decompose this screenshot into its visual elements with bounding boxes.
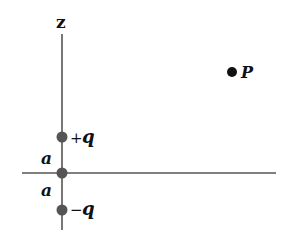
dipole-diagram: z + q − q a a P (0, 0, 283, 237)
origin-dot (57, 168, 68, 179)
point-p-label: P (240, 63, 254, 82)
point-p-dot (227, 67, 237, 77)
distance-label-upper: a (41, 148, 52, 168)
negative-charge-symbol: q (82, 198, 95, 219)
negative-charge-sign: − (70, 201, 83, 219)
positive-charge-symbol: q (82, 126, 95, 147)
negative-charge (57, 205, 68, 216)
z-axis-label: z (56, 12, 66, 32)
positive-charge (57, 132, 68, 143)
positive-charge-sign: + (70, 129, 83, 147)
distance-label-lower: a (41, 180, 52, 200)
